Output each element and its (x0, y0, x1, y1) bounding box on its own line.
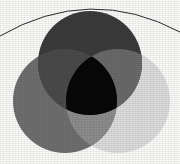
figure-caption: · (0, 151, 180, 164)
venn-figure: · (0, 0, 180, 164)
venn-diagram-canvas (0, 0, 180, 164)
